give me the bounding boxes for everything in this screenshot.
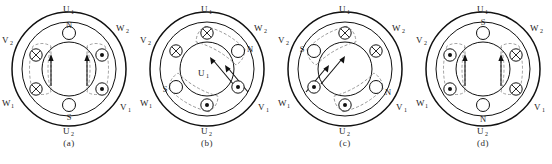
svg-text:2: 2 — [126, 28, 129, 34]
svg-text:1: 1 — [542, 107, 545, 113]
terminal-label-lower-right: V 1 — [120, 102, 131, 113]
svg-text:1: 1 — [485, 9, 488, 15]
svg-text:2: 2 — [71, 131, 74, 137]
conductor-out-2 — [444, 83, 456, 95]
conductor-into-1 — [201, 27, 213, 39]
svg-text:U: U — [63, 4, 70, 14]
pole-label-north: N — [385, 87, 391, 97]
terminal-label-bottom: U 2 — [477, 126, 488, 137]
svg-text:W: W — [254, 23, 263, 33]
svg-text:2: 2 — [286, 40, 289, 46]
pole-label-north: N — [247, 44, 253, 54]
svg-text:1: 1 — [128, 107, 131, 113]
panel-b-diagram: N S U 1 — [138, 0, 276, 138]
conductor-out-1 — [232, 81, 244, 93]
svg-text:1: 1 — [71, 9, 74, 15]
pole-label-north: N — [480, 114, 486, 124]
panel-c-diagram: S N U 1 — [276, 0, 414, 138]
svg-text:2: 2 — [209, 131, 212, 137]
terminal-label-top: U 1 — [201, 4, 212, 15]
conductor-out-2 — [201, 99, 213, 111]
svg-text:W: W — [278, 98, 287, 108]
terminal-label-upper-right: W 2 — [254, 23, 267, 34]
terminal-label-lower-right: V 1 — [258, 102, 269, 113]
svg-text:V: V — [258, 102, 265, 112]
svg-text:U: U — [198, 68, 205, 78]
svg-text:U: U — [477, 4, 484, 14]
svg-text:V: V — [120, 102, 127, 112]
conductor-into-2 — [510, 83, 522, 95]
pole-north — [232, 45, 245, 58]
pole-south — [170, 81, 183, 94]
svg-text:2: 2 — [424, 40, 427, 46]
conductor-into-1 — [339, 27, 351, 39]
svg-text:1: 1 — [347, 9, 350, 15]
conductor-out-2 — [96, 83, 108, 95]
terminal-label-lower-left: W 1 — [2, 98, 14, 109]
pole-south — [308, 45, 321, 58]
conductor-out-1 — [308, 81, 320, 93]
conductor-out-2 — [339, 99, 351, 111]
panel-caption-a: (a) — [0, 138, 138, 148]
svg-text:W: W — [392, 23, 401, 33]
svg-text:V: V — [396, 102, 403, 112]
panel-d-diagram: S N U 1 — [414, 0, 552, 138]
terminal-label-upper-right: W 2 — [116, 23, 129, 34]
rotating-magnetic-field-figure: N S U 1 — [0, 0, 552, 164]
pole-south — [63, 99, 76, 112]
svg-text:V: V — [2, 35, 9, 45]
pole-label-north: N — [66, 20, 72, 30]
svg-text:U: U — [63, 126, 70, 136]
svg-text:V: V — [278, 35, 285, 45]
conductor-into-1 — [510, 49, 522, 61]
svg-text:W: W — [416, 98, 425, 108]
conductor-into-2 — [30, 83, 42, 95]
terminal-label-lower-left: W 1 — [278, 98, 290, 109]
panel-caption-c: (c) — [276, 138, 414, 148]
svg-text:1: 1 — [425, 103, 428, 109]
svg-text:1: 1 — [404, 107, 407, 113]
svg-text:W: W — [140, 98, 149, 108]
svg-text:U: U — [339, 4, 346, 14]
svg-text:U: U — [339, 126, 346, 136]
svg-text:2: 2 — [264, 28, 267, 34]
panel-a-diagram: N S U 1 — [0, 0, 138, 138]
svg-text:V: V — [416, 35, 423, 45]
pole-north — [370, 81, 383, 94]
svg-text:V: V — [140, 35, 147, 45]
terminal-label-lower-left: W 1 — [140, 98, 152, 109]
panel-b: N S U 1 — [138, 0, 276, 164]
terminal-label-upper-left: V 2 — [2, 35, 13, 46]
conductor-out-1 — [96, 49, 108, 61]
terminal-label-bottom: U 2 — [201, 126, 212, 137]
terminal-label-bottom: U 2 — [63, 126, 74, 137]
svg-text:V: V — [534, 102, 541, 112]
conductor-into-2 — [170, 45, 182, 57]
svg-text:1: 1 — [206, 73, 209, 79]
svg-text:2: 2 — [485, 131, 488, 137]
terminal-label-lower-left: W 1 — [416, 98, 428, 109]
pole-north — [477, 99, 490, 112]
pole-label-south: S — [163, 84, 168, 94]
svg-text:W: W — [116, 23, 125, 33]
conductor-into-2 — [370, 45, 382, 57]
panel-caption-d: (d) — [414, 138, 552, 148]
svg-text:U: U — [477, 126, 484, 136]
svg-text:2: 2 — [148, 40, 151, 46]
terminal-label-upper-right: W 2 — [530, 23, 543, 34]
terminal-label-top: U 1 — [477, 4, 488, 15]
svg-text:W: W — [2, 98, 11, 108]
svg-text:W: W — [530, 23, 539, 33]
svg-text:1: 1 — [287, 103, 290, 109]
terminal-label-upper-left: V 2 — [140, 35, 151, 46]
panel-d: S N U 1 — [414, 0, 552, 164]
panel-a: N S U 1 — [0, 0, 138, 164]
terminal-label-upper-right: W 2 — [392, 23, 405, 34]
svg-text:1: 1 — [209, 9, 212, 15]
svg-text:2: 2 — [540, 28, 543, 34]
svg-text:2: 2 — [10, 40, 13, 46]
terminal-label-lower-right: V 1 — [534, 102, 545, 113]
svg-text:1: 1 — [149, 103, 152, 109]
terminal-label-top: U 1 — [63, 4, 74, 15]
svg-text:U: U — [201, 126, 208, 136]
